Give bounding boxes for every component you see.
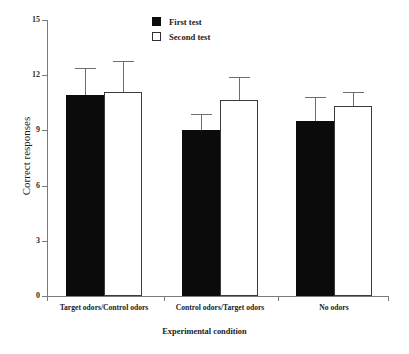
bar-group-2-series-0 [296,121,334,296]
y-axis-line [47,20,48,297]
bar-group-0-series-1 [104,92,142,296]
legend: First test Second test [152,14,210,44]
y-tick-label-wrap-0: 0 [0,291,40,301]
legend-swatch-second-test-icon [152,32,161,41]
y-tick-15 [42,20,47,21]
bar-group-1-series-0 [182,130,220,296]
legend-swatch-first-test-icon [152,17,161,26]
x-category-label-2: No odors [254,303,409,312]
error-bar-stem-group-0-series-1 [123,61,124,91]
y-tick-label-wrap-6: 6 [0,181,40,191]
bar-group-2-series-1 [334,106,372,296]
error-bar-stem-group-2-series-0 [315,97,316,121]
y-tick-label-wrap-9: 9 [0,125,40,135]
x-tick-0 [47,296,48,301]
y-tick-label-9: 9 [0,125,40,134]
y-tick-12 [42,75,47,76]
error-bar-stem-group-1-series-1 [239,77,240,100]
error-bar-cap-group-1-series-0 [191,114,212,115]
x-axis-title: Experimental condition [0,327,409,336]
x-axis-line [47,296,388,297]
y-tick-label-3: 3 [0,236,40,245]
bar-chart-figure: Correct responses 03691215 Target odors/… [0,0,409,354]
legend-label-second-test: Second test [169,32,210,42]
y-tick-6 [42,186,47,187]
y-tick-label-wrap-3: 3 [0,236,40,246]
y-tick-3 [42,241,47,242]
legend-item-first-test: First test [152,14,210,29]
y-axis-title: Correct responses [20,76,32,236]
x-tick-3 [388,296,389,301]
x-tick-1 [164,296,165,301]
y-tick-label-wrap-12: 12 [0,70,40,80]
legend-label-first-test: First test [169,17,202,27]
error-bar-cap-group-2-series-1 [343,92,364,93]
y-tick-label-6: 6 [0,181,40,190]
error-bar-cap-group-0-series-1 [113,61,134,62]
error-bar-stem-group-2-series-1 [353,92,354,107]
error-bar-stem-group-0-series-0 [85,68,86,96]
y-tick-label-12: 12 [0,70,40,79]
bar-group-1-series-1 [220,100,258,296]
y-tick-label-15: 15 [0,15,40,24]
bar-group-0-series-0 [66,95,104,296]
error-bar-cap-group-0-series-0 [75,68,96,69]
error-bar-stem-group-1-series-0 [201,114,202,131]
error-bar-cap-group-2-series-0 [305,97,326,98]
error-bar-cap-group-1-series-1 [229,77,250,78]
legend-item-second-test: Second test [152,29,210,44]
x-tick-2 [278,296,279,301]
y-tick-9 [42,130,47,131]
y-tick-label-0: 0 [0,291,40,300]
y-tick-label-wrap-15: 15 [0,15,40,25]
